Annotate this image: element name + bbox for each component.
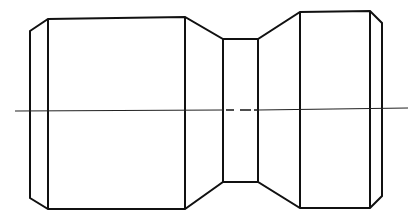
shaft-drawing (0, 0, 419, 220)
centerline (15, 108, 408, 111)
centerline-right-segment (258, 108, 408, 110)
centerline-left-segment (15, 110, 223, 111)
